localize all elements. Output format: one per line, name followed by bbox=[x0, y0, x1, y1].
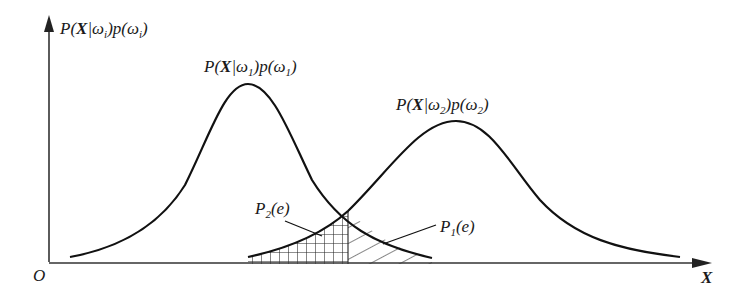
p1-error-label: P1(e) bbox=[439, 217, 475, 238]
origin-label: O bbox=[33, 266, 45, 285]
x-axis-arrow-icon bbox=[692, 258, 712, 268]
class-1-curve bbox=[70, 84, 432, 258]
class-1-label: P(X|ω1)p(ω1) bbox=[203, 57, 297, 78]
p2-error-label: P2(e) bbox=[254, 199, 290, 220]
bayes-error-diagram: P(X|ωi)p(ωi) P(X|ω1)p(ω1) P(X|ω2)p(ω2) P… bbox=[0, 0, 749, 303]
y-axis-label: P(X|ωi)p(ωi) bbox=[59, 19, 148, 40]
y-axis-arrow-icon bbox=[44, 15, 54, 32]
x-axis-label: X bbox=[700, 268, 713, 287]
class-2-label: P(X|ω2)p(ω2) bbox=[395, 95, 489, 116]
p2-leader-line bbox=[285, 221, 322, 236]
y-axis bbox=[44, 15, 54, 262]
p1-leader-line bbox=[383, 225, 436, 244]
